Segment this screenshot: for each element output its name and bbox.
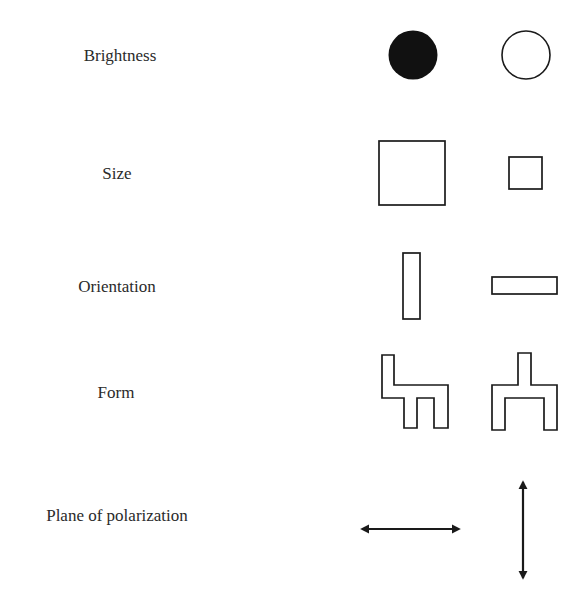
- vertical-rectangle-icon: [403, 253, 420, 319]
- table-shape-icon: [492, 353, 557, 430]
- large-square-icon: [379, 141, 445, 205]
- filled-circle-icon: [389, 31, 438, 80]
- outline-circle-icon: [502, 31, 550, 79]
- horizontal-rectangle-icon: [492, 277, 557, 294]
- chair-shape-icon: [382, 355, 448, 428]
- small-square-icon: [509, 157, 542, 189]
- feature-diagram: [0, 0, 572, 599]
